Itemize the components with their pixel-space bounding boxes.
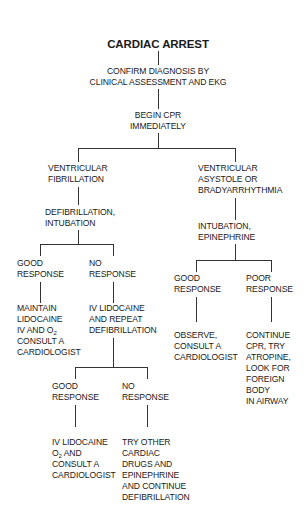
node-vf-no-response: NO RESPONSE bbox=[89, 258, 136, 280]
node-asystole-poor-response: POOR RESPONSE bbox=[246, 273, 293, 295]
node-continue-cpr: CONTINUE CPR, TRY ATROPINE, LOOK FOR FOR… bbox=[246, 330, 291, 407]
connector-line bbox=[147, 405, 148, 427]
connector-line bbox=[113, 282, 114, 303]
connector-line bbox=[40, 244, 41, 256]
connector-line bbox=[75, 367, 76, 379]
connector-line bbox=[196, 260, 197, 272]
node-begin-cpr: BEGIN CPR IMMEDIATELY bbox=[130, 110, 186, 132]
branch-line bbox=[40, 244, 114, 245]
connector-line bbox=[113, 338, 114, 367]
node-try-other-drugs: TRY OTHER CARDIAC DRUGS AND EPINEPHRINE … bbox=[122, 437, 190, 503]
node-iv-lidocaine-repeat: IV LIDOCAINE AND REPEAT DEFIBRILLATION bbox=[89, 303, 157, 336]
node-vf-good-response: GOOD RESPONSE bbox=[17, 258, 64, 280]
node-intubation-epinephrine: INTUBATION, EPINEPHRINE bbox=[198, 221, 255, 243]
node-confirm-diagnosis: CONFIRM DIAGNOSIS BY CLINICAL ASSESSMENT… bbox=[90, 66, 227, 88]
text: IV LIDOCAINE bbox=[52, 437, 108, 447]
node-repeat-good-response: GOOD RESPONSE bbox=[52, 381, 99, 403]
text: AND bbox=[62, 448, 82, 458]
connector-line bbox=[78, 230, 79, 244]
node-repeat-no-response: NO RESPONSE bbox=[122, 381, 169, 403]
node-iv-lidocaine-o2: IV LIDOCAINEO2 ANDCONSULT A CARDIOLOGIST bbox=[52, 437, 116, 481]
connector-line bbox=[40, 282, 41, 303]
connector-line bbox=[78, 187, 79, 205]
node-observe-consult: OBSERVE, CONSULT A CARDIOLOGIST bbox=[174, 330, 238, 363]
text: CONSULT A CARDIOLOGIST bbox=[17, 336, 81, 357]
node-ventricular-fibrillation: VENTRICULAR FIBRILLATION bbox=[48, 163, 108, 185]
connector-line bbox=[235, 244, 236, 260]
connector-line bbox=[113, 244, 114, 256]
node-maintain-lidocaine: MAINTAIN LIDOCAINE IV AND O2CONSULT A CA… bbox=[17, 303, 81, 358]
connector-line bbox=[75, 405, 76, 427]
connector-line bbox=[235, 198, 236, 220]
connector-line bbox=[158, 133, 159, 148]
connector-line bbox=[271, 297, 272, 322]
branch-line bbox=[196, 260, 272, 261]
text: CONSULT A CARDIOLOGIST bbox=[52, 459, 116, 480]
connector-line bbox=[196, 297, 197, 322]
connector-line bbox=[158, 89, 159, 109]
connector-line bbox=[147, 367, 148, 379]
text: O bbox=[52, 448, 59, 458]
branch-line bbox=[75, 367, 148, 368]
node-asystole-good-response: GOOD RESPONSE bbox=[174, 273, 221, 295]
diagram-title: CARDIAC ARREST bbox=[107, 38, 209, 51]
node-asystole-bradyarrhythmia: VENTRICULAR ASYSTOLE OR BRADYARRHYTHMIA bbox=[198, 163, 282, 196]
connector-line bbox=[78, 148, 79, 162]
connector-line bbox=[158, 51, 159, 65]
connector-line bbox=[271, 260, 272, 272]
node-defibrillation-intubation: DEFIBRILLATION, INTUBATION bbox=[45, 207, 115, 229]
branch-line bbox=[78, 148, 236, 149]
connector-line bbox=[235, 148, 236, 162]
